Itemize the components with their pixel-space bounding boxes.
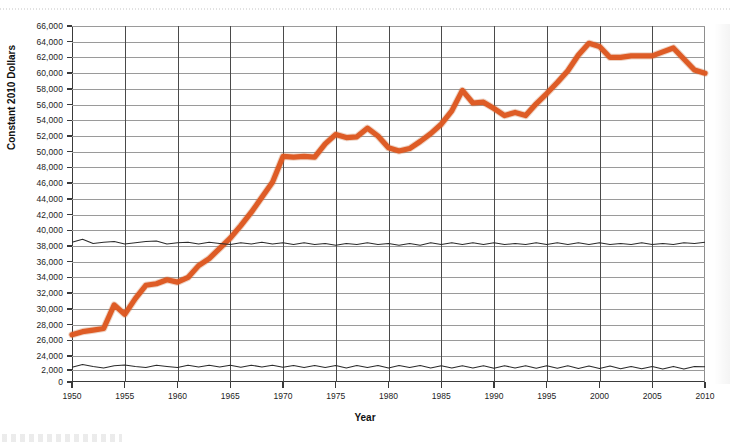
x-tick-mark-1975 [335, 382, 336, 388]
x-tick-label-1975: 1975 [326, 391, 345, 401]
data-series-layer [72, 26, 705, 382]
x-tick-mark-1995 [546, 382, 547, 388]
plot-area [72, 26, 705, 382]
y-tick-label-0: 0 [0, 377, 63, 387]
series-line-secondary-1 [72, 239, 705, 245]
series-line-primary [72, 43, 705, 335]
y-tick-label-52000: 52,000 [0, 131, 63, 141]
x-tick-mark-1990 [493, 382, 494, 388]
x-tick-mark-1985 [441, 382, 442, 388]
y-tick-label-40000: 40,000 [0, 225, 63, 235]
y-tick-label-58000: 58,000 [0, 84, 63, 94]
y-tick-label-66000: 66,000 [0, 21, 63, 31]
x-tick-label-1985: 1985 [432, 391, 451, 401]
x-tick-mark-2005 [652, 382, 653, 388]
y-tick-label-46000: 46,000 [0, 178, 63, 188]
x-tick-label-1995: 1995 [537, 391, 556, 401]
x-tick-label-1970: 1970 [274, 391, 293, 401]
y-tick-label-44000: 44,000 [0, 194, 63, 204]
series-line-secondary-2 [72, 365, 705, 370]
x-tick-mark-2000 [599, 382, 600, 388]
y-tick-label-30000: 30,000 [0, 304, 63, 314]
figure-root: Constant 2010 Dollars Year 02,00024,0002… [0, 0, 730, 446]
y-tick-label-2000: 2,000 [0, 365, 63, 375]
x-tick-label-2000: 2000 [590, 391, 609, 401]
series-line-halo-0 [72, 43, 705, 335]
x-tick-label-1960: 1960 [168, 391, 187, 401]
y-tick-label-56000: 56,000 [0, 100, 63, 110]
y-tick-label-24000: 24,000 [0, 351, 63, 361]
y-tick-label-60000: 60,000 [0, 68, 63, 78]
y-tick-label-54000: 54,000 [0, 115, 63, 125]
x-tick-mark-1950 [71, 382, 72, 388]
x-tick-label-2010: 2010 [696, 391, 715, 401]
y-tick-label-64000: 64,000 [0, 37, 63, 47]
y-tick-label-42000: 42,000 [0, 210, 63, 220]
x-tick-mark-2010 [704, 382, 705, 388]
x-tick-label-1965: 1965 [221, 391, 240, 401]
x-tick-mark-1965 [230, 382, 231, 388]
x-axis-title: Year [0, 412, 730, 423]
x-tick-label-2005: 2005 [643, 391, 662, 401]
x-tick-mark-1970 [282, 382, 283, 388]
x-tick-mark-1980 [388, 382, 389, 388]
page-top-rule-decoration [0, 8, 730, 10]
x-tick-label-1950: 1950 [63, 391, 82, 401]
y-tick-label-34000: 34,000 [0, 272, 63, 282]
y-tick-label-38000: 38,000 [0, 241, 63, 251]
x-tick-label-1990: 1990 [485, 391, 504, 401]
page-bottom-caption-smudge [2, 434, 122, 442]
page-right-edge-shadow [714, 24, 730, 384]
y-tick-label-50000: 50,000 [0, 147, 63, 157]
x-tick-label-1955: 1955 [115, 391, 134, 401]
x-tick-mark-1955 [124, 382, 125, 388]
y-tick-label-36000: 36,000 [0, 257, 63, 267]
y-tick-label-26000: 26,000 [0, 335, 63, 345]
y-tick-label-32000: 32,000 [0, 288, 63, 298]
y-tick-label-48000: 48,000 [0, 162, 63, 172]
x-tick-mark-1960 [177, 382, 178, 388]
y-tick-label-28000: 28,000 [0, 320, 63, 330]
x-tick-label-1980: 1980 [379, 391, 398, 401]
y-tick-label-62000: 62,000 [0, 52, 63, 62]
